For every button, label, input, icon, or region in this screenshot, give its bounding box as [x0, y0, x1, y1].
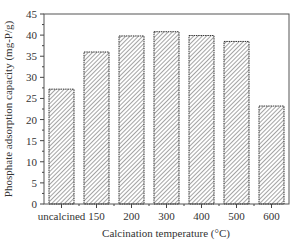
bar-200	[119, 36, 144, 204]
x-tick-label: uncalcined	[38, 210, 86, 222]
y-axis-title: Phosphate adsorption capacity (mg-P/g)	[2, 21, 15, 198]
y-tick-label: 10	[26, 156, 38, 168]
y-tick-label: 5	[32, 177, 38, 189]
x-tick-label: 300	[158, 210, 175, 222]
y-tick-label: 40	[26, 29, 38, 41]
x-tick-label: 200	[123, 210, 140, 222]
bar-300	[154, 32, 179, 204]
x-tick-label: 400	[193, 210, 210, 222]
bar-400	[189, 36, 214, 204]
y-axis: 051015202530354045	[26, 8, 44, 210]
y-tick-label: 35	[26, 50, 38, 62]
y-tick-label: 20	[26, 114, 38, 126]
bar-600	[259, 106, 284, 204]
y-tick-label: 30	[26, 71, 38, 83]
x-tick-label: 150	[88, 210, 105, 222]
bar-150	[84, 52, 109, 204]
y-tick-label: 25	[26, 92, 38, 104]
y-tick-label: 0	[32, 198, 38, 210]
bar-500	[224, 41, 249, 204]
x-axis: uncalcined150200300400500600	[38, 204, 281, 222]
x-tick-label: 600	[263, 210, 280, 222]
y-tick-label: 15	[26, 135, 38, 147]
plot-area	[44, 14, 289, 204]
bar-uncalcined	[49, 89, 74, 204]
y-tick-label: 45	[26, 8, 38, 20]
x-axis-title: Calcination temperature (°C)	[102, 227, 230, 240]
x-tick-label: 500	[228, 210, 245, 222]
bar-chart: 051015202530354045 uncalcined15020030040…	[0, 0, 296, 243]
